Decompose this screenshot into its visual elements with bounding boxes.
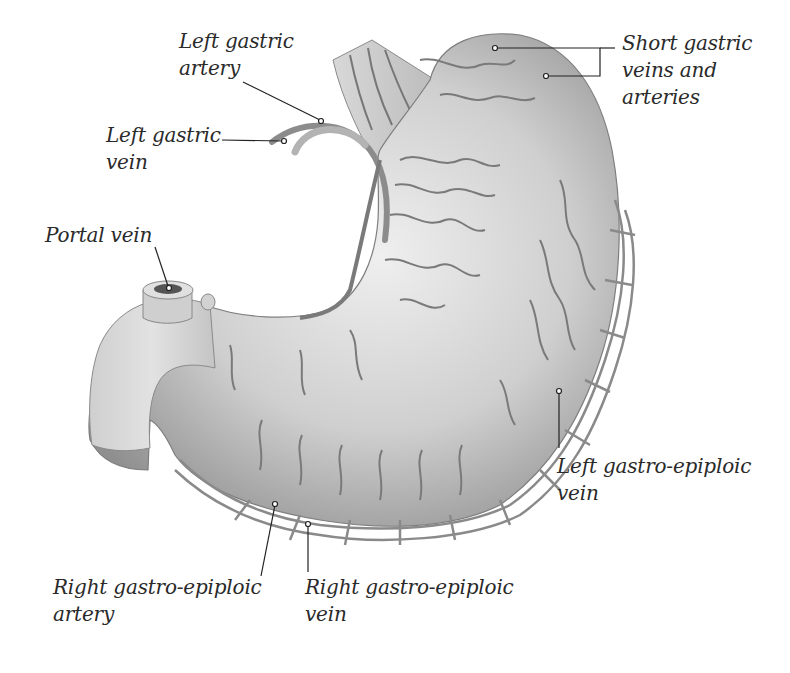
label-line: Right gastro-epiploic <box>53 574 262 601</box>
label-left-gastric-artery: Left gastric artery <box>179 28 294 82</box>
label-line: Portal vein <box>45 222 152 249</box>
label-line: artery <box>179 55 294 82</box>
label-line: veins and <box>622 57 752 84</box>
label-line: arteries <box>622 84 752 111</box>
label-right-gastro-epiploic-artery: Right gastro-epiploic artery <box>53 574 262 628</box>
label-line: Short gastric <box>622 30 752 57</box>
label-line: Right gastro-epiploic <box>305 574 514 601</box>
label-left-gastric-vein: Left gastric vein <box>106 122 221 176</box>
label-line: vein <box>557 480 751 507</box>
label-line: vein <box>305 601 514 628</box>
label-line: vein <box>106 149 221 176</box>
label-line: Left gastric <box>106 122 221 149</box>
label-short-gastric-vessels: Short gastric veins and arteries <box>622 30 752 111</box>
label-left-gastro-epiploic-vein: Left gastro-epiploic vein <box>557 453 751 507</box>
label-line: artery <box>53 601 262 628</box>
label-line: Left gastric <box>179 28 294 55</box>
label-portal-vein: Portal vein <box>45 222 152 249</box>
label-right-gastro-epiploic-vein: Right gastro-epiploic vein <box>305 574 514 628</box>
label-line: Left gastro-epiploic <box>557 453 751 480</box>
